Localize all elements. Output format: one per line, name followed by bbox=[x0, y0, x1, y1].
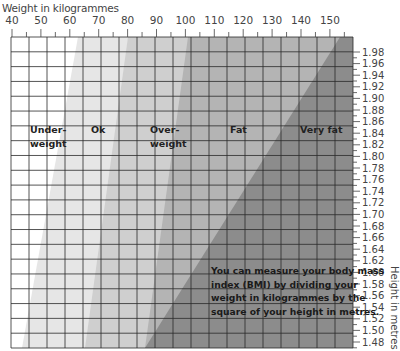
label-underweight: weight bbox=[30, 138, 67, 149]
label-very-fat: Very fat bbox=[300, 124, 343, 135]
y-tick-label: 1.92 bbox=[362, 81, 384, 92]
x-tick-label: 80 bbox=[121, 14, 134, 26]
bmi-note: square of your height in metres. bbox=[211, 306, 379, 317]
y-tick-label: 1.84 bbox=[362, 128, 384, 139]
x-tick-label: 110 bbox=[204, 14, 224, 26]
x-tick-label: 70 bbox=[92, 14, 105, 26]
y-tick-label: 1.86 bbox=[362, 116, 384, 127]
x-tick-label: 120 bbox=[233, 14, 253, 26]
bmi-note: You can measure your body mass bbox=[210, 265, 385, 276]
y-tick-label: 1.90 bbox=[362, 93, 384, 104]
y-tick-label: 1.70 bbox=[362, 209, 384, 220]
y-tick-label: 1.80 bbox=[362, 151, 384, 162]
label-underweight: Under- bbox=[30, 124, 66, 135]
y-tick-label: 1.72 bbox=[362, 197, 384, 208]
x-tick-label: 140 bbox=[291, 14, 311, 26]
y-tick-label: 1.94 bbox=[362, 70, 384, 81]
y-tick-label: 1.68 bbox=[362, 221, 384, 232]
x-tick-label: 100 bbox=[175, 14, 195, 26]
y-tick-label: 1.98 bbox=[362, 47, 384, 58]
y-axis-title: Height in metres bbox=[389, 266, 400, 350]
label-overweight: weight bbox=[150, 138, 187, 149]
y-tick-label: 1.48 bbox=[362, 337, 384, 348]
x-tick-label: 60 bbox=[63, 14, 76, 26]
label-overweight: Over- bbox=[150, 124, 179, 135]
bmi-note: index (BMI) by dividing your bbox=[211, 279, 358, 290]
y-tick-label: 1.74 bbox=[362, 186, 384, 197]
y-tick-label: 1.78 bbox=[362, 163, 384, 174]
y-tick-label: 1.58 bbox=[362, 279, 384, 290]
label-ok: Ok bbox=[91, 124, 106, 135]
y-tick-label: 1.64 bbox=[362, 244, 384, 255]
y-tick-label: 1.96 bbox=[362, 58, 384, 69]
x-tick-label: 130 bbox=[262, 14, 282, 26]
y-tick-label: 1.50 bbox=[362, 325, 384, 336]
x-tick-label: 50 bbox=[34, 14, 47, 26]
x-tick-label: 40 bbox=[5, 14, 18, 26]
label-fat: Fat bbox=[230, 124, 247, 135]
x-tick-label: 150 bbox=[320, 14, 340, 26]
x-tick-label: 90 bbox=[150, 14, 163, 26]
y-tick-label: 1.76 bbox=[362, 174, 384, 185]
y-tick-label: 1.82 bbox=[362, 139, 384, 150]
bmi-note: weight in kilogrammes by the bbox=[211, 292, 365, 303]
bmi-chart: 4050607080901001101201301401501.981.961.… bbox=[0, 0, 400, 351]
y-tick-label: 1.88 bbox=[362, 105, 384, 116]
y-tick-label: 1.66 bbox=[362, 232, 384, 243]
